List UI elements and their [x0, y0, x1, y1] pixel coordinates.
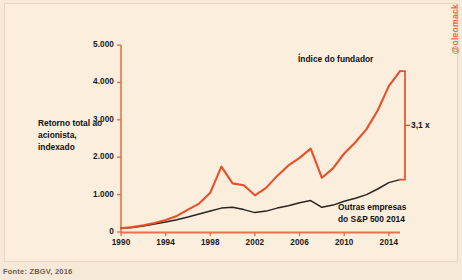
y-tick-label: 1.000 — [70, 190, 114, 199]
x-tick-label: 2006 — [290, 238, 309, 247]
y-tick-label: 0 — [70, 227, 114, 236]
x-tick-label: 1994 — [156, 238, 175, 247]
x-tick-label: 2002 — [246, 238, 265, 247]
x-tick-label: 2014 — [380, 238, 399, 247]
callout-bracket — [399, 71, 405, 179]
source-note: Fonte: ZBGV, 2016 — [3, 267, 72, 276]
x-tick-label: 1990 — [112, 238, 131, 247]
y-tick-label: 2.000 — [70, 152, 114, 161]
x-tick-label: 2010 — [335, 238, 354, 247]
series-line-founder-index — [121, 71, 400, 228]
y-tick-label: 3.000 — [70, 115, 114, 124]
y-tick-label: 5.000 — [70, 40, 114, 49]
y-tick-label: 4.000 — [70, 77, 114, 86]
chart-root: @oleomack Retorno total ao acionista, in… — [0, 0, 462, 280]
axis-ticks-group — [117, 45, 389, 236]
x-tick-label: 1998 — [201, 238, 220, 247]
